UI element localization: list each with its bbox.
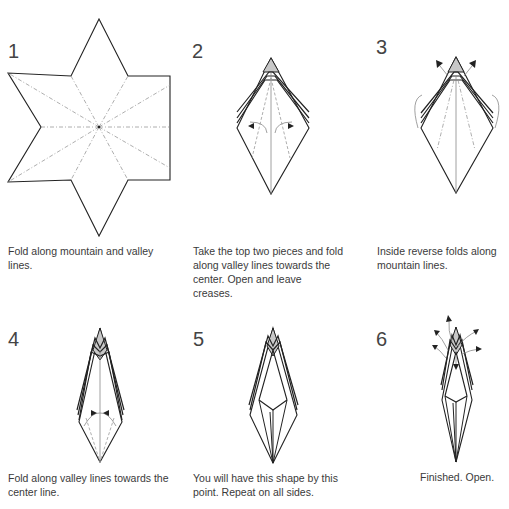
step-5-diagram <box>170 250 340 470</box>
center-point-icon <box>98 126 101 129</box>
step-6-caption: Finished. Open. <box>420 470 509 484</box>
arrow-up-left-icon <box>436 60 443 68</box>
step-2-diagram <box>170 0 340 240</box>
step-4-caption: Fold along valley lines towards the cent… <box>8 471 170 499</box>
arrow-up-right-icon <box>469 60 476 68</box>
arrow-icon <box>476 346 482 352</box>
step-6-diagram <box>340 250 509 470</box>
step-5-caption: You will have this shape by this point. … <box>193 471 343 499</box>
arrow-icon <box>446 315 452 322</box>
step-4-diagram <box>0 250 170 470</box>
step-3-diagram <box>340 0 509 240</box>
step-1-star-diagram <box>0 0 170 240</box>
arrow-icon <box>432 345 438 350</box>
arrow-icon <box>473 329 479 335</box>
